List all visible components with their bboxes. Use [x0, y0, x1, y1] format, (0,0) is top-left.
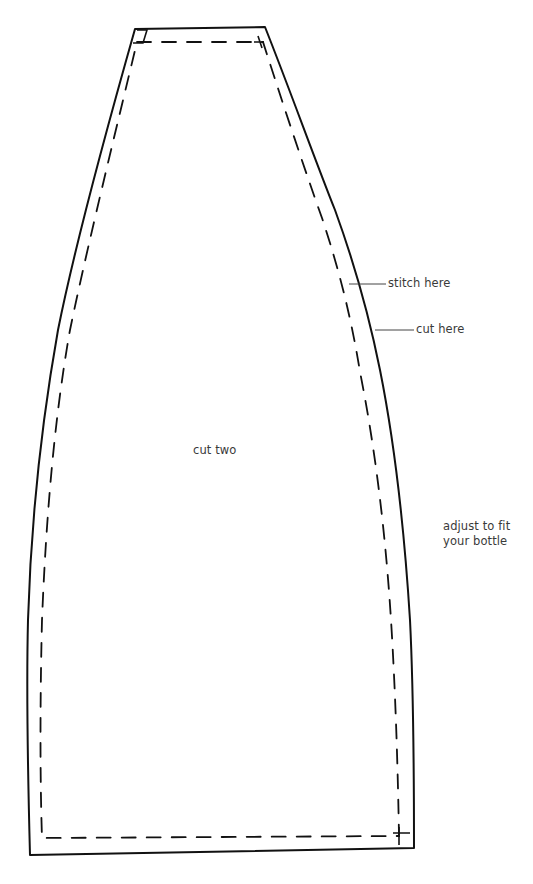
adjust-note-line-1: adjust to fit — [443, 519, 510, 534]
stitch-outline — [41, 42, 400, 838]
pattern-drawing — [0, 0, 533, 884]
adjust-note-line-2: your bottle — [443, 534, 510, 549]
cut-here-label: cut here — [416, 322, 465, 337]
adjust-note: adjust to fit your bottle — [443, 519, 510, 549]
corner-mark-bottom-right — [393, 827, 410, 845]
corner-mark-top-right — [254, 36, 264, 48]
cut-two-label: cut two — [193, 443, 236, 458]
cut-outline — [27, 27, 414, 855]
stitch-here-label: stitch here — [388, 276, 451, 291]
